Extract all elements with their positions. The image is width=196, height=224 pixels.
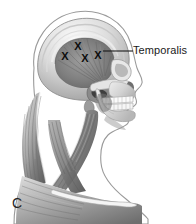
temporalis-label: Temporalis	[133, 45, 187, 56]
anatomical-figure: X X X X Temporalis C	[0, 0, 196, 224]
panel-label: C	[12, 196, 22, 210]
trigger-point-marker: X	[94, 50, 101, 61]
trigger-point-marker: X	[61, 51, 68, 62]
trigger-point-marker: X	[74, 41, 81, 52]
trigger-point-marker: X	[81, 53, 88, 64]
head-neck-illustration	[0, 0, 196, 224]
